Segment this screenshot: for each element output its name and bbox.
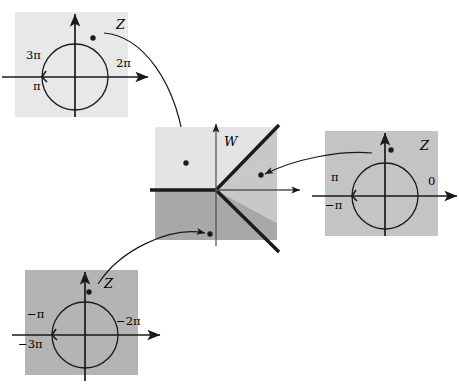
- axis-label-right-minus-pi: −π: [325, 200, 342, 212]
- axis-label-top-left-2pi: 2π: [116, 58, 131, 70]
- axis-label-right-zero: 0: [428, 176, 435, 188]
- axis-label-bottom-left-minus-2pi: −2π: [116, 316, 141, 328]
- axis-label-top-left-pi: π: [33, 81, 41, 93]
- sample-point-right: [388, 147, 393, 152]
- panel-background-top-left: [15, 12, 128, 117]
- axis-label-top-left-3pi: 3π: [26, 50, 41, 62]
- axis-label-bottom-left-minus-3pi: −3π: [18, 339, 43, 351]
- plane-label-bottom-left-z: Z: [104, 277, 113, 290]
- axis-label-bottom-left-minus-pi: −π: [27, 309, 44, 321]
- plane-label-center-w: W: [224, 135, 237, 148]
- sample-point-bottom-left: [86, 289, 91, 294]
- plane-label-right-z: Z: [420, 139, 429, 152]
- diagram-svg: [0, 0, 459, 384]
- image-point-from-bottom-left: [207, 231, 212, 236]
- plane-label-top-left-z: Z: [116, 18, 125, 31]
- figure-canvas: Z 3π π 2π W Z π −π 0 Z −π −3π −2π: [0, 0, 459, 384]
- image-point-from-top-left: [183, 160, 188, 165]
- image-point-from-right: [258, 172, 263, 177]
- axis-label-right-pi: π: [331, 172, 339, 184]
- sample-point-top-left: [90, 35, 95, 40]
